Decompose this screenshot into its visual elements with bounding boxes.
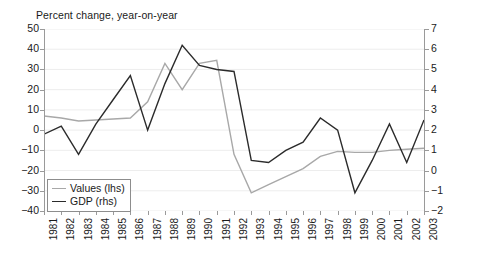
right-axis-tick-label: −1 xyxy=(431,184,443,196)
x-axis-tick-label: 1993 xyxy=(255,218,266,240)
tick-text: 40 xyxy=(3,42,39,54)
tick-text: 20 xyxy=(3,83,39,95)
tick-text: 10 xyxy=(3,103,39,115)
x-axis-tick-label: 1983 xyxy=(83,218,94,240)
legend-item-values: Values (lhs) xyxy=(52,182,125,195)
x-axis-tick-label: 2000 xyxy=(376,218,387,240)
x-axis-tick-mark xyxy=(182,211,183,215)
x-axis-tick-label: 1981 xyxy=(48,218,59,240)
x-axis-tick-mark xyxy=(269,211,270,215)
x-axis-tick-mark xyxy=(286,211,287,215)
x-axis-tick-mark xyxy=(148,211,149,215)
legend-label-gdp: GDP (rhs) xyxy=(70,195,117,208)
x-axis-tick-label: 1984 xyxy=(100,218,111,240)
tick-text: −20 xyxy=(3,164,39,176)
x-axis-tick-label: 1999 xyxy=(359,218,370,240)
x-axis-tick-label: 1989 xyxy=(186,218,197,240)
x-axis-tick-label: 2002 xyxy=(411,218,422,240)
right-axis-tick-mark xyxy=(425,29,429,30)
x-axis-tick-mark xyxy=(320,211,321,215)
right-axis-tick-mark xyxy=(425,49,429,50)
x-axis-tick-label: 1995 xyxy=(290,218,301,240)
x-axis-tick-label: 2003 xyxy=(428,218,439,240)
x-axis-tick-mark xyxy=(407,211,408,215)
right-axis-tick-label: 6 xyxy=(431,42,437,54)
x-axis-tick-label: 1996 xyxy=(307,218,318,240)
x-axis-tick-mark xyxy=(355,211,356,215)
x-axis-tick-label: 1986 xyxy=(134,218,145,240)
right-axis-tick-label: −2 xyxy=(431,204,443,216)
legend-item-gdp: GDP (rhs) xyxy=(52,195,125,208)
right-axis-tick-mark xyxy=(425,171,429,172)
left-axis-tick-mark xyxy=(40,110,44,111)
right-axis-tick-mark xyxy=(425,150,429,151)
x-axis-tick-label: 1994 xyxy=(273,218,284,240)
right-axis-tick-label: 5 xyxy=(431,62,437,74)
right-axis-tick-label: 7 xyxy=(431,22,437,34)
x-axis-tick-mark xyxy=(338,211,339,215)
x-axis-tick-label: 1998 xyxy=(342,218,353,240)
x-axis-tick-mark xyxy=(303,211,304,215)
series-line xyxy=(44,45,424,193)
right-axis-tick-mark xyxy=(425,69,429,70)
tick-text: 30 xyxy=(3,62,39,74)
tick-text: −30 xyxy=(3,184,39,196)
legend-label-values: Values (lhs) xyxy=(70,182,125,195)
x-axis-tick-label: 1987 xyxy=(152,218,163,240)
chart-title: Percent change, year-on-year xyxy=(36,9,178,21)
x-axis-tick-label: 1988 xyxy=(169,218,180,240)
left-axis-line xyxy=(44,29,45,211)
series-line xyxy=(44,60,424,192)
x-axis-tick-mark xyxy=(424,211,425,215)
x-axis-tick-label: 1992 xyxy=(238,218,249,240)
left-axis-tick-mark xyxy=(40,191,44,192)
chart-container: Percent change, year-on-year −40−30−20−1… xyxy=(0,0,481,259)
x-axis-tick-mark xyxy=(217,211,218,215)
legend-line-icon-values xyxy=(52,188,66,189)
left-axis-tick-mark xyxy=(40,90,44,91)
right-axis-tick-mark xyxy=(425,90,429,91)
right-axis-tick-mark xyxy=(425,110,429,111)
left-axis-tick-mark xyxy=(40,49,44,50)
x-axis-tick-mark xyxy=(389,211,390,215)
right-axis-line xyxy=(424,29,425,211)
x-axis-tick-label: 1990 xyxy=(203,218,214,240)
left-axis-tick-mark xyxy=(40,29,44,30)
chart-legend: Values (lhs) GDP (rhs) xyxy=(47,179,131,212)
x-axis-tick-label: 1982 xyxy=(65,218,76,240)
x-axis-tick-label: 2001 xyxy=(393,218,404,240)
right-axis-tick-label: 1 xyxy=(431,143,437,155)
x-axis-tick-label: 1985 xyxy=(117,218,128,240)
legend-line-icon-gdp xyxy=(52,201,66,202)
x-axis-tick-mark xyxy=(372,211,373,215)
right-axis-tick-label: 2 xyxy=(431,123,437,135)
left-axis-tick-mark xyxy=(40,150,44,151)
x-axis-tick-label: 1997 xyxy=(324,218,335,240)
tick-text: −10 xyxy=(3,143,39,155)
right-axis-tick-mark xyxy=(425,191,429,192)
x-axis-tick-mark xyxy=(165,211,166,215)
right-axis-tick-mark xyxy=(425,211,429,212)
right-axis-tick-label: 4 xyxy=(431,83,437,95)
left-axis-tick-mark xyxy=(40,171,44,172)
x-axis-tick-mark xyxy=(199,211,200,215)
left-axis-tick-mark xyxy=(40,130,44,131)
right-axis-tick-label: 0 xyxy=(431,164,437,176)
x-axis-tick-mark xyxy=(251,211,252,215)
x-axis-tick-label: 1991 xyxy=(221,218,232,240)
tick-text: 50 xyxy=(3,22,39,34)
tick-text: 0 xyxy=(3,123,39,135)
right-axis-tick-label: 3 xyxy=(431,103,437,115)
left-axis-tick-mark xyxy=(40,69,44,70)
x-axis-tick-mark xyxy=(234,211,235,215)
right-axis-tick-mark xyxy=(425,130,429,131)
x-axis-tick-mark xyxy=(44,211,45,215)
tick-text: −40 xyxy=(3,204,39,216)
